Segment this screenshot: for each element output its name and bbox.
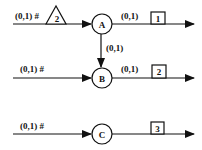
output-label-b: (0,1) <box>121 64 138 74</box>
output-label-a: (0,1) <box>121 11 138 21</box>
diagram-canvas: (0,1) # 2 A (0,1) 1 (0,1) (0,1) # B (0,1… <box>0 0 202 150</box>
input-label-a: (0,1) # <box>15 11 39 21</box>
output-box-3-label: 3 <box>155 124 160 134</box>
link-a-b: (0,1) <box>101 34 123 67</box>
row-b: (0,1) # B (0,1) 2 <box>13 64 194 88</box>
node-a-label: A <box>99 20 106 30</box>
link-label-a-b: (0,1) <box>106 43 123 53</box>
row-a: (0,1) # 2 A (0,1) 1 <box>13 6 194 34</box>
output-box-1-label: 1 <box>156 14 161 24</box>
output-box-2-label: 2 <box>157 67 162 77</box>
row-c: (0,1) # C 3 <box>13 121 194 144</box>
input-label-b: (0,1) # <box>20 64 44 74</box>
node-c-label: C <box>99 130 106 140</box>
input-label-c: (0,1) # <box>20 121 44 131</box>
node-b-label: B <box>99 74 105 84</box>
triangle-marker-label: 2 <box>55 14 60 24</box>
